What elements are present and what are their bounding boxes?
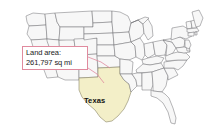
state-connecticut (188, 32, 194, 36)
state-kansas (97, 45, 115, 56)
state-arkansas (120, 59, 133, 74)
texas-state-label: Texas (84, 96, 105, 105)
state-north-dakota (92, 11, 112, 23)
callout-label: Land area: (26, 49, 87, 57)
land-area-callout: Land area: 261,797 sq mi (22, 46, 88, 70)
state-minnesota (112, 11, 131, 33)
state-washington (26, 13, 46, 26)
us-map-svg (0, 0, 208, 140)
state-oregon (27, 25, 47, 40)
state-rhode-island (195, 32, 197, 35)
state-new-jersey (185, 40, 191, 49)
state-florida (151, 90, 176, 124)
state-missouri (114, 42, 136, 60)
callout-value: 261,797 sq mi (26, 59, 87, 67)
state-alabama (142, 72, 153, 90)
state-montana (55, 11, 93, 27)
state-wyoming (59, 27, 84, 40)
map-screenshot: Land area: 261,797 sq mi Texas (0, 0, 208, 140)
